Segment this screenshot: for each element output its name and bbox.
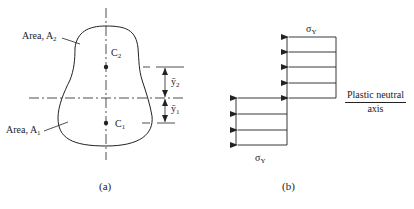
pna-line1: Plastic neutral	[345, 89, 406, 103]
centroid-c2-label: C2	[111, 48, 121, 60]
yield-stress-top-label: σY	[306, 24, 316, 36]
stress-distribution-figure	[236, 37, 336, 145]
area-a1-leader	[44, 122, 68, 131]
dim-y2-label: ȳ2	[171, 77, 180, 89]
plastic-neutral-axis-label: Plastic neutral axis	[345, 89, 406, 114]
centroid-c1-label: C1	[115, 119, 125, 131]
dim-y1-label: ȳ1	[171, 104, 180, 116]
caption-a: (a)	[99, 181, 111, 192]
yield-stress-bottom-label: σY	[255, 153, 265, 165]
section-outline	[58, 26, 152, 146]
centroid-c2-dot	[104, 65, 108, 69]
area-a2-label: Area, A2	[22, 31, 57, 43]
area-a1-label: Area, A1	[6, 125, 41, 137]
caption-b: (b)	[282, 181, 295, 192]
centroid-c1-dot	[104, 121, 108, 125]
pna-line2: axis	[367, 103, 383, 114]
